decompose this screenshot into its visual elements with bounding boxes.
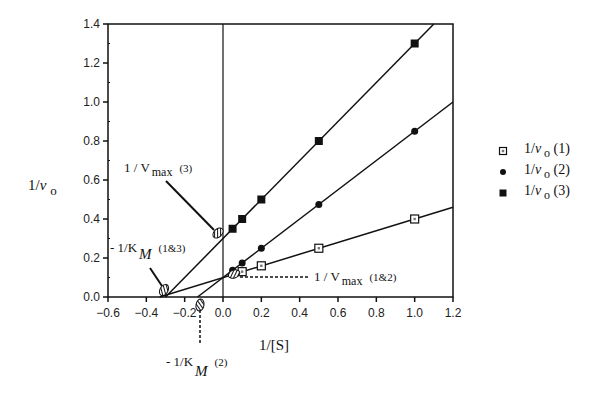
filled-diamond-marker xyxy=(411,128,418,135)
x-tick-label: 0.4 xyxy=(291,306,308,320)
filled-diamond-marker xyxy=(500,169,506,175)
y-tick-label: 0.0 xyxy=(83,290,100,304)
legend-item-3: 1/v o (3) xyxy=(496,182,570,203)
filled-square-marker xyxy=(229,225,237,233)
filled-square-marker xyxy=(257,196,265,204)
annotation-km-1-3: - 1/KM(1&3) xyxy=(110,240,186,262)
x-tick-label: 1.2 xyxy=(445,306,462,320)
annotation-vmax-1-2: 1 / Vmax(1&2) xyxy=(314,269,397,288)
x-axis-label: 1/[S] xyxy=(259,337,289,353)
filled-square-marker xyxy=(500,189,507,196)
fit-line-series-3 xyxy=(166,24,434,297)
legend-item-2: 1/v o (2) xyxy=(496,161,570,182)
filled-square-marker xyxy=(411,40,419,48)
y-tick-label: 1.4 xyxy=(83,17,100,31)
annotation-vmax-3: 1 / Vmax(3) xyxy=(124,160,193,179)
filled-square-marker xyxy=(315,137,323,145)
legend-label: 1/v o (1) xyxy=(524,141,570,161)
y-tick-label: 1.2 xyxy=(83,56,100,70)
annotation-arrow-km-1-3 xyxy=(150,268,162,286)
y-axis-label: 1/vo xyxy=(28,177,57,198)
plot-border xyxy=(108,24,453,297)
y-tick-label: 0.4 xyxy=(83,212,100,226)
filled-diamond-marker xyxy=(258,245,265,252)
legend: 1/v o (1)1/v o (2)1/v o (3) xyxy=(496,140,570,203)
x-tick-label: 1.0 xyxy=(406,306,423,320)
plot-frame xyxy=(108,24,453,297)
filled-diamond-icon xyxy=(496,167,510,177)
x-tick-label: 0.0 xyxy=(215,306,232,320)
annotation-arrow-vmax-3 xyxy=(166,181,214,230)
arrowhead-icon xyxy=(195,298,205,311)
annotations: 1 / Vmax(3) - 1/KM(1&3) 1 / Vmax(1&2) - … xyxy=(110,160,397,379)
data-markers xyxy=(229,40,419,276)
filled-diamond-marker xyxy=(315,201,322,208)
x-tick-label: 0.6 xyxy=(330,306,347,320)
fit-lines xyxy=(160,24,453,297)
legend-label: 1/v o (2) xyxy=(524,162,570,182)
y-tick-label: 1.0 xyxy=(83,95,100,109)
x-tick-label: −0.4 xyxy=(134,306,158,320)
filled-diamond-marker xyxy=(239,259,246,266)
x-tick-label: −0.6 xyxy=(96,306,120,320)
x-tick-label: −0.2 xyxy=(173,306,197,320)
x-tick-label: 0.2 xyxy=(253,306,270,320)
filled-square-marker xyxy=(238,215,246,223)
y-tick-label: 0.2 xyxy=(83,251,100,265)
filled-square-icon xyxy=(496,188,510,198)
legend-item-1: 1/v o (1) xyxy=(496,140,570,161)
annotation-km-2: - 1/KM(2) xyxy=(166,354,228,379)
x-tick-label: 0.8 xyxy=(368,306,385,320)
y-tick-label: 0.6 xyxy=(83,173,100,187)
y-tick-label: 0.8 xyxy=(83,134,100,148)
open-square-icon xyxy=(496,146,510,156)
legend-label: 1/v o (3) xyxy=(524,183,570,203)
